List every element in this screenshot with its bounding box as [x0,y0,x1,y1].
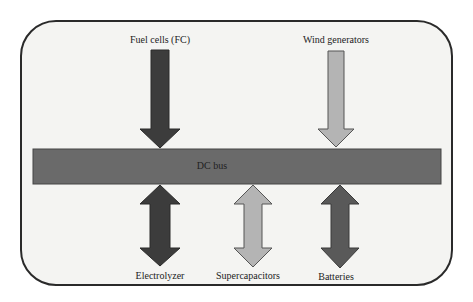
batteries-label: Batteries [318,271,354,282]
batteries-arrow-icon [321,185,359,268]
wind-generators-arrow-icon [318,51,354,147]
wind-generators-label: Wind generators [303,34,369,45]
dc-bus-bar [33,149,441,184]
fuel-cells-arrow-icon [140,50,180,148]
fuel-cells-label: Fuel cells (FC) [130,34,190,45]
supercapacitors-arrow-icon [234,185,272,267]
dc-bus-label: DC bus [197,160,227,171]
diagram-canvas [0,0,473,302]
electrolyzer-label: Electrolyzer [136,270,185,281]
electrolyzer-arrow-icon [140,185,180,266]
supercapacitors-label: Supercapacitors [216,270,280,281]
